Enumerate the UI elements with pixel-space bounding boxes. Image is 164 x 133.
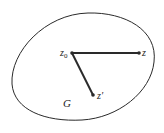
segment-z0-zprime [72,53,93,95]
region-boundary [12,13,154,120]
label-zprime: z′ [96,90,104,101]
label-z: z [141,47,146,58]
point-zprime [91,93,95,97]
region-label: G [63,97,71,109]
label-z0: z0 [59,47,68,60]
point-z0 [70,51,74,55]
point-z [137,51,141,55]
domain-diagram: z0 z z′ G [0,0,164,133]
